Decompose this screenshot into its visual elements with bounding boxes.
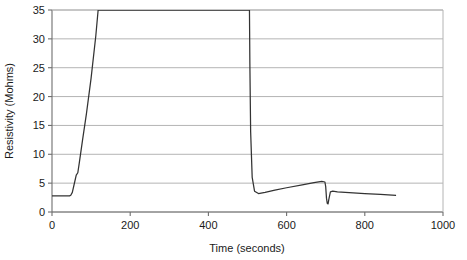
y-tick-label-5: 5: [39, 177, 45, 189]
y-tick-label-15: 15: [33, 119, 45, 131]
x-tick-label-400: 400: [199, 219, 217, 231]
y-tick-label-20: 20: [33, 91, 45, 103]
x-tick-label-0: 0: [49, 219, 55, 231]
y-tick-label-10: 10: [33, 148, 45, 160]
grid-lines: [52, 10, 443, 212]
x-axis-title: Time (seconds): [209, 242, 284, 254]
x-tick-label-600: 600: [277, 219, 295, 231]
x-tick-label-800: 800: [356, 219, 374, 231]
y-axis-title: Resistivity (Mohms): [3, 63, 15, 159]
y-axis-ticks: 05101520253035: [33, 4, 52, 218]
chart-container: 05101520253035 02004006008001000 Time (s…: [0, 0, 467, 260]
resistivity-line-chart: 05101520253035 02004006008001000 Time (s…: [0, 0, 467, 260]
y-tick-label-30: 30: [33, 33, 45, 45]
y-tick-label-25: 25: [33, 62, 45, 74]
x-tick-label-200: 200: [121, 219, 139, 231]
x-tick-label-1000: 1000: [431, 219, 455, 231]
axis-lines: [52, 10, 443, 212]
y-tick-label-35: 35: [33, 4, 45, 16]
x-axis-ticks: 02004006008001000: [49, 212, 455, 231]
y-tick-label-0: 0: [39, 206, 45, 218]
